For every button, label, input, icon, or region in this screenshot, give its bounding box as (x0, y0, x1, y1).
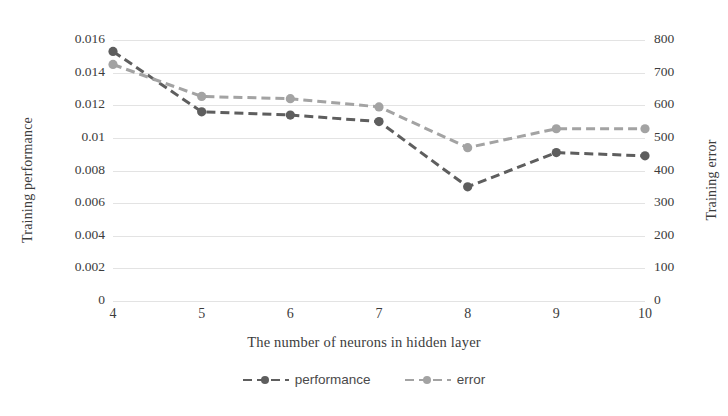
data-point-performance (640, 151, 649, 160)
legend-item-error[interactable]: error (405, 372, 486, 387)
y-axis-left-tick-label: 0.006 (38, 194, 105, 210)
y-axis-left-tick-label: 0 (38, 292, 105, 308)
data-point-error (552, 124, 561, 133)
y-axis-right-tick-label: 300 (654, 194, 674, 210)
y-axis-left-tick-label: 0.004 (38, 227, 105, 243)
x-axis-title: The number of neurons in hidden layer (0, 334, 728, 351)
legend-item-performance[interactable]: performance (243, 372, 371, 387)
data-point-error (286, 94, 295, 103)
data-point-performance (463, 182, 472, 191)
y-axis-right-tick-label: 400 (654, 162, 674, 178)
x-axis-tick-label: 7 (376, 306, 383, 322)
y-axis-right-title: Training error (704, 90, 720, 270)
data-point-error (108, 60, 117, 69)
y-axis-left-tick-label: 0.012 (38, 96, 105, 112)
y-axis-left-tick-label: 0.002 (38, 259, 105, 275)
y-axis-left-title: Training performance (20, 90, 36, 270)
data-point-error (463, 143, 472, 152)
legend-label: performance (295, 372, 371, 387)
y-axis-right-ticks: 0100200300400500600700800 (654, 40, 704, 301)
x-axis-tick-label: 4 (110, 306, 117, 322)
chart-figure: Training performance Training error The … (0, 0, 728, 416)
data-point-error (640, 124, 649, 133)
data-point-performance (108, 47, 117, 56)
legend-line-marker-icon (243, 374, 289, 386)
data-point-performance (286, 110, 295, 119)
y-axis-left-ticks: 00.0020.0040.0060.0080.010.0120.0140.016 (38, 40, 105, 301)
y-axis-right-tick-label: 100 (654, 259, 674, 275)
x-axis-tick-label: 9 (553, 306, 560, 322)
y-axis-left-tick-label: 0.016 (38, 31, 105, 47)
data-point-error (197, 92, 206, 101)
series-layer (103, 26, 655, 316)
y-axis-left-tick-label: 0.008 (38, 162, 105, 178)
y-axis-right-tick-label: 500 (654, 129, 674, 145)
data-point-performance (374, 117, 383, 126)
legend-label: error (457, 372, 486, 387)
data-point-performance (197, 107, 206, 116)
data-point-performance (552, 148, 561, 157)
y-axis-left-tick-label: 0.01 (38, 129, 105, 145)
y-axis-right-tick-label: 600 (654, 96, 674, 112)
x-axis-tick-label: 6 (287, 306, 294, 322)
y-axis-right-tick-label: 800 (654, 31, 674, 47)
y-axis-right-tick-label: 0 (654, 292, 661, 308)
x-axis-ticks: 45678910 (113, 306, 645, 328)
x-axis-tick-label: 8 (464, 306, 471, 322)
legend-line-marker-icon (405, 374, 451, 386)
chart-legend: performanceerror (0, 372, 728, 387)
x-axis-tick-label: 5 (198, 306, 205, 322)
y-axis-right-tick-label: 700 (654, 64, 674, 80)
x-axis-tick-label: 10 (638, 306, 652, 322)
plot-area (113, 40, 645, 301)
y-axis-right-tick-label: 200 (654, 227, 674, 243)
data-point-error (374, 102, 383, 111)
y-axis-left-tick-label: 0.014 (38, 64, 105, 80)
